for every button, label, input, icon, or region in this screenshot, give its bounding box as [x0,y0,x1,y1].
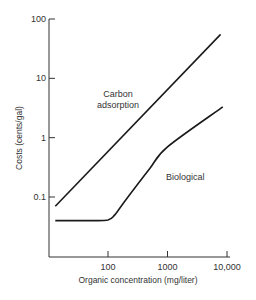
x-tick-label: 1000 [157,262,177,272]
x-axis-title: Organic concentration (mg/liter) [78,275,197,285]
biological-label: Biological [166,172,205,182]
chart: 0.1110100 100100010,000 Carbon adsorptio… [0,0,256,300]
x-tick-label: 10,000 [213,262,241,272]
carbon-adsorption-label-line2: adsorption [97,100,139,110]
y-tick-label: 100 [31,14,46,24]
x-ticks: 100100010,000 [100,251,240,272]
biological-line [55,107,223,221]
y-tick-label: 0.1 [33,192,46,202]
y-axis-title: Costs (cents/gal) [14,106,24,170]
carbon-adsorption-label-line1: Carbon [103,89,133,99]
y-ticks: 0.1110100 [31,14,55,202]
y-tick-label: 10 [36,73,46,83]
x-tick-label: 100 [100,262,115,272]
y-tick-label: 1 [41,133,46,143]
